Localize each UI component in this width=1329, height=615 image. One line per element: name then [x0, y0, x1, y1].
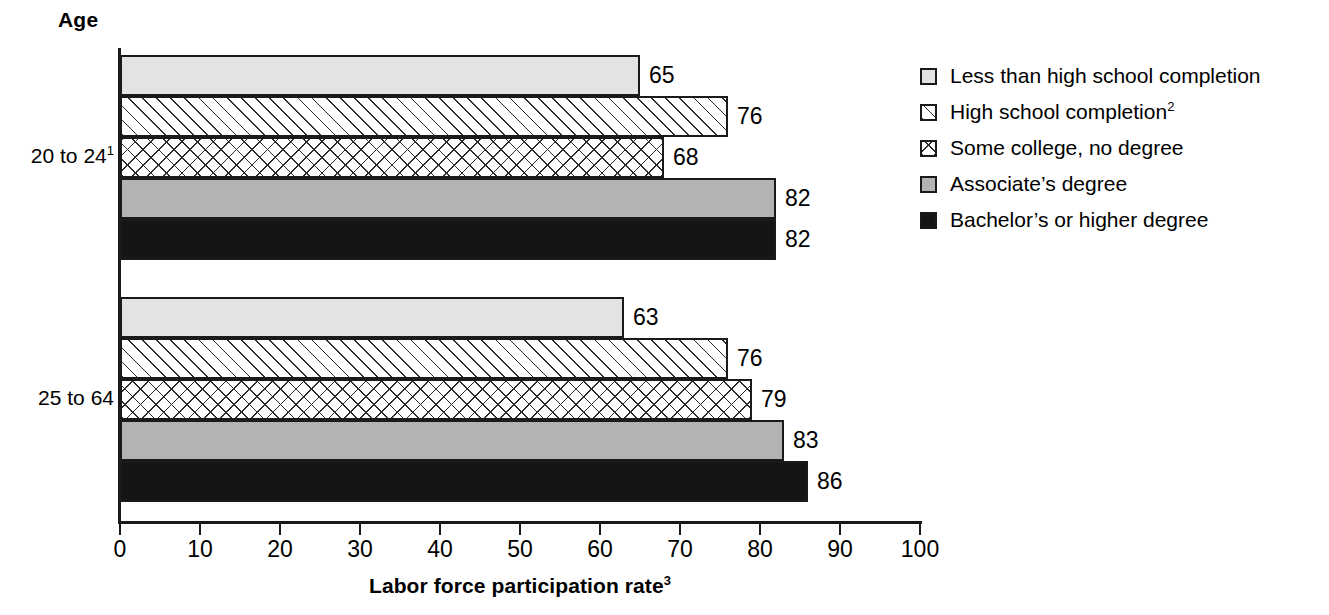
category-label-superscript: 1 [107, 143, 114, 158]
bar [120, 420, 784, 461]
legend-item-label: Associate’s degree [950, 172, 1127, 196]
legend: Less than high school completionHigh sch… [920, 58, 1261, 238]
legend-item-label-text: Associate’s degree [950, 172, 1127, 195]
legend-item-label: Bachelor’s or higher degree [950, 208, 1208, 232]
legend-swatch-icon [920, 68, 937, 85]
x-axis-tick-label: 90 [827, 536, 853, 563]
x-axis-tick [119, 524, 121, 535]
x-axis-tick [679, 524, 681, 535]
bar [120, 338, 728, 379]
legend-item-label-text: Some college, no degree [950, 136, 1184, 159]
bar-value-label: 68 [673, 137, 699, 178]
x-axis-tick-label: 10 [187, 536, 213, 563]
bar-value-label: 82 [785, 178, 811, 219]
x-axis-tick [439, 524, 441, 535]
x-axis-title: Labor force participation rate3 [120, 574, 920, 598]
category-label-text: 20 to 24 [31, 144, 107, 167]
legend-item-superscript: 2 [1167, 99, 1174, 114]
legend-item[interactable]: Less than high school completion [920, 58, 1261, 94]
legend-swatch-icon [920, 212, 937, 229]
x-axis-tick-label: 70 [667, 536, 693, 563]
bar-value-label: 83 [793, 420, 819, 461]
x-axis-tick [839, 524, 841, 535]
x-axis-tick-label: 60 [587, 536, 613, 563]
bar-value-label: 63 [633, 297, 659, 338]
legend-item-label-text: Less than high school completion [950, 64, 1261, 87]
legend-swatch-icon [920, 176, 937, 193]
legend-item-label-text: Bachelor’s or higher degree [950, 208, 1208, 231]
legend-swatch-icon [920, 104, 937, 121]
x-axis-tick [759, 524, 761, 535]
x-axis-tick [199, 524, 201, 535]
category-label: 20 to 241 [31, 144, 114, 168]
x-axis-tick [519, 524, 521, 535]
bar-value-label: 79 [761, 379, 787, 420]
x-axis-tick [359, 524, 361, 535]
bar [120, 137, 664, 178]
chart-container: Age 0102030405060708090100 20 to 24125 t… [0, 0, 1329, 615]
legend-item-label: Less than high school completion [950, 64, 1261, 88]
category-label: 25 to 64 [38, 386, 114, 410]
category-label-text: 25 to 64 [38, 386, 114, 409]
legend-item-label: Some college, no degree [950, 136, 1184, 160]
bar [120, 55, 640, 96]
x-axis-tick-label: 30 [347, 536, 373, 563]
bar [120, 297, 624, 338]
bar-value-label: 82 [785, 219, 811, 260]
x-axis-tick-label: 80 [747, 536, 773, 563]
legend-item[interactable]: Associate’s degree [920, 166, 1261, 202]
x-axis-title-text: Labor force participation rate [369, 574, 664, 597]
bar [120, 461, 808, 502]
legend-item[interactable]: Some college, no degree [920, 130, 1261, 166]
legend-swatch-icon [920, 140, 937, 157]
x-axis-tick-label: 20 [267, 536, 293, 563]
bar [120, 379, 752, 420]
legend-item-label-text: High school completion [950, 100, 1167, 123]
legend-item[interactable]: Bachelor’s or higher degree [920, 202, 1261, 238]
x-axis-tick-label: 100 [901, 536, 939, 563]
x-axis-tick-label: 40 [427, 536, 453, 563]
bar-value-label: 76 [737, 338, 763, 379]
bar [120, 96, 728, 137]
x-axis-tick [919, 524, 921, 535]
bar [120, 219, 776, 260]
bar-value-label: 76 [737, 96, 763, 137]
bar-value-label: 65 [649, 55, 675, 96]
age-axis-title: Age [58, 8, 98, 32]
x-axis-tick [599, 524, 601, 535]
bar [120, 178, 776, 219]
x-axis-tick-label: 50 [507, 536, 533, 563]
legend-item[interactable]: High school completion2 [920, 94, 1261, 130]
x-axis-tick [279, 524, 281, 535]
x-axis-title-superscript: 3 [664, 573, 671, 588]
x-axis-tick-label: 0 [114, 536, 127, 563]
bar-value-label: 86 [817, 461, 843, 502]
legend-item-label: High school completion2 [950, 100, 1174, 124]
